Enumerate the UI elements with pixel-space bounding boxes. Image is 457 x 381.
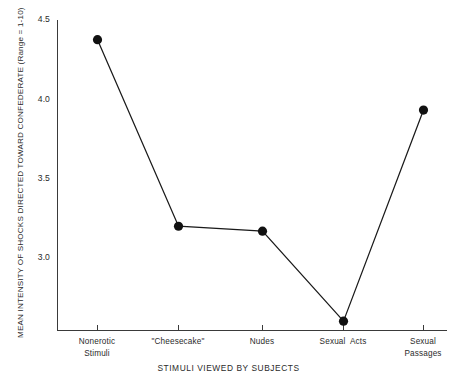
plot-area bbox=[57, 20, 447, 331]
chart-page: MEAN INTENSITY OF SHOCKS DIRECTED TOWARD… bbox=[0, 0, 457, 381]
y-tick-label-4-0: 4.0 bbox=[26, 95, 50, 104]
x-tick-label-sexual-acts: Sexual Acts bbox=[320, 336, 367, 348]
y-tick-label-3-0: 3.0 bbox=[26, 253, 50, 262]
y-axis-tick-labels: 4.5 4.0 3.5 3.0 bbox=[24, 0, 50, 381]
y-tick-label-3-5: 3.5 bbox=[26, 174, 50, 183]
x-axis-tick-labels: Nonerotic Stimuli "Cheesecake" Nudes Sex… bbox=[0, 336, 457, 366]
data-point-2 bbox=[258, 227, 267, 236]
data-series-markers bbox=[93, 35, 428, 326]
x-tick-label-cheesecake: "Cheesecake" bbox=[151, 336, 204, 348]
x-tick-label-sexual-passages: Sexual Passages bbox=[404, 336, 441, 359]
x-axis-title: STIMULI VIEWED BY SUBJECTS bbox=[0, 363, 457, 373]
data-point-1 bbox=[174, 222, 183, 231]
data-point-3 bbox=[339, 317, 348, 326]
y-tick-label-4-5: 4.5 bbox=[26, 15, 50, 24]
data-point-0 bbox=[93, 35, 102, 44]
x-tick-label-nudes: Nudes bbox=[250, 336, 274, 348]
x-tick-label-nonerotic-stimuli: Nonerotic Stimuli bbox=[79, 336, 115, 359]
data-point-4 bbox=[419, 105, 428, 114]
data-series-line bbox=[98, 40, 424, 322]
